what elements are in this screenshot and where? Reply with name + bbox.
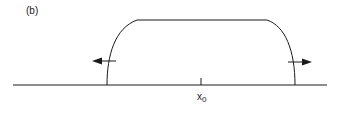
diagram-figure: (b) x0: [0, 0, 340, 116]
panel-label: (b): [26, 5, 38, 16]
left-arrow-icon: [92, 58, 116, 65]
x-label-subscript: 0: [202, 95, 206, 104]
diagram-canvas: [0, 0, 340, 116]
profile-curve: [107, 20, 295, 85]
right-arrow-icon: [288, 59, 312, 66]
x0-label: x0: [197, 91, 206, 104]
